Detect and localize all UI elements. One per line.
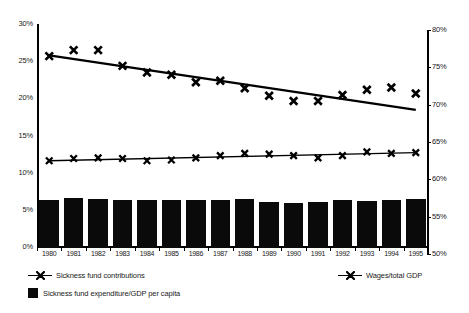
- marker-x-wages: [339, 91, 347, 99]
- trend-line-wages: [49, 55, 416, 110]
- legend-label-expenditure: Sickness fund expenditure/GDP per capita: [43, 289, 180, 298]
- marker-x-wages: [265, 92, 273, 100]
- legend-marker-x-icon: [28, 270, 52, 280]
- marker-x-wages: [192, 79, 200, 87]
- y-axis-right-tick-mark: [427, 30, 431, 31]
- marker-x-wages: [363, 86, 371, 94]
- marker-x-wages: [314, 97, 322, 105]
- marker-x-wages: [388, 84, 396, 92]
- legend-label-contributions: Sickness fund contributions: [56, 271, 145, 280]
- marker-x-wages: [70, 46, 78, 54]
- legend-item-contributions: Sickness fund contributions: [28, 270, 145, 280]
- legend-label-wages: Wages/total GDP: [366, 271, 422, 280]
- legend-marker-x-icon: [338, 270, 362, 280]
- legend-swatch-bar-icon: [28, 288, 38, 298]
- chart-legend: Sickness fund contributions Wages/total …: [0, 268, 469, 313]
- trend-line-contributions: [49, 153, 416, 161]
- marker-x-contributions: [339, 152, 346, 159]
- marker-x-wages: [94, 46, 102, 54]
- y-axis-right-tick-mark: [427, 142, 431, 143]
- line-series-layer: [0, 0, 469, 313]
- y-axis-right-tick-mark: [427, 179, 431, 180]
- legend-item-expenditure: Sickness fund expenditure/GDP per capita: [28, 288, 180, 298]
- marker-x-contributions: [315, 155, 322, 162]
- legend-item-wages: Wages/total GDP: [338, 270, 422, 280]
- y-axis-right-tick-mark: [427, 217, 431, 218]
- marker-x-wages: [412, 90, 420, 98]
- y-axis-right-tick-mark: [427, 67, 431, 68]
- chart-container: 0%5%10%15%20%25%30% 50%55%60%65%70%75%80…: [0, 0, 469, 313]
- marker-x-wages: [290, 97, 298, 105]
- marker-x-contributions: [217, 152, 224, 159]
- marker-x-contributions: [241, 150, 248, 157]
- y-axis-right-tick-mark: [427, 254, 431, 255]
- marker-x-wages: [241, 84, 249, 92]
- y-axis-right-tick-mark: [427, 105, 431, 106]
